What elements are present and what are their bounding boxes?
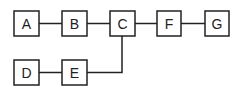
node-label: G bbox=[212, 16, 223, 32]
node-label: D bbox=[21, 65, 31, 81]
node-e: E bbox=[62, 60, 87, 85]
node-label: C bbox=[117, 16, 127, 32]
edge-e-c bbox=[87, 36, 122, 73]
node-label: F bbox=[165, 16, 174, 32]
node-label: E bbox=[70, 65, 79, 81]
node-c: C bbox=[110, 11, 135, 36]
node-g: G bbox=[205, 11, 229, 36]
node-label: B bbox=[70, 16, 79, 32]
node-a: A bbox=[14, 11, 39, 36]
node-d: D bbox=[14, 60, 39, 85]
node-b: B bbox=[62, 11, 87, 36]
block-diagram: A B C F G D E bbox=[0, 0, 241, 96]
node-label: A bbox=[22, 16, 32, 32]
node-f: F bbox=[157, 11, 181, 36]
